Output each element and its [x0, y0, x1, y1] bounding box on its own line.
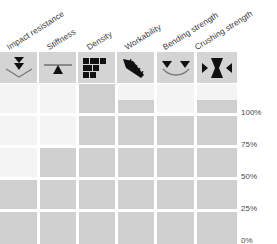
icon-cell-stiffness[interactable]: [39, 52, 76, 83]
bar-fill-bending-strength: [157, 116, 194, 244]
bar-fill-stiffness: [39, 145, 76, 244]
gridline-col-4: [154, 84, 157, 244]
bar-fill-impact-resistance: [0, 180, 37, 244]
y-tick-0: 0%: [241, 236, 253, 244]
gridline-col-1: [37, 84, 40, 244]
column-header-bending-strength: Bending strength: [161, 11, 220, 52]
y-tick-50: 50%: [241, 172, 257, 181]
diagonal-saw-blade-icon: [120, 56, 152, 80]
bar-column-crushing-strength[interactable]: [197, 84, 237, 244]
icon-cell-crushing-strength[interactable]: [197, 52, 237, 83]
compression-hourglass-icon: [200, 57, 234, 79]
bar-fill-workability: [117, 100, 154, 244]
bending-beam-two-arrows-icon: [159, 58, 193, 78]
y-tick-25: 25%: [241, 204, 257, 213]
bar-column-bending-strength[interactable]: [157, 84, 194, 244]
bar-column-stiffness[interactable]: [39, 84, 76, 244]
bar-fill-density: [78, 84, 115, 244]
gridline-100: [0, 113, 237, 116]
column-header-workability: Workability: [123, 23, 163, 52]
gridline-col-5: [194, 84, 197, 244]
icon-header-row: [0, 52, 237, 83]
column-header-density: Density: [85, 30, 114, 52]
bar-fill-crushing-strength: [197, 100, 237, 244]
bar-column-density[interactable]: [78, 84, 115, 244]
icon-cell-workability[interactable]: [117, 52, 154, 83]
bar-column-workability[interactable]: [117, 84, 154, 244]
brick-blocks-icon: [82, 57, 112, 79]
double-down-arrow-impact-icon: [4, 56, 34, 80]
column-header-band: Impact resistance Stiffness Density Work…: [0, 0, 277, 52]
icon-cell-density[interactable]: [78, 52, 115, 83]
gridline-25: [0, 209, 237, 212]
y-tick-100: 100%: [241, 108, 261, 117]
y-axis-labels: 100% 75% 50% 25% 0%: [241, 84, 277, 244]
column-header-stiffness: Stiffness: [45, 27, 77, 52]
gridline-50: [0, 177, 237, 180]
gridline-col-3: [115, 84, 118, 244]
icon-cell-bending-strength[interactable]: [157, 52, 194, 83]
y-tick-75: 75%: [241, 140, 257, 149]
gridline-col-2: [76, 84, 79, 244]
bar-column-impact-resistance[interactable]: [0, 84, 37, 244]
gridline-75: [0, 145, 237, 148]
beam-upward-triangle-icon: [42, 57, 74, 79]
column-header-crushing-strength: Crushing strength: [193, 9, 254, 52]
bar-grid: [0, 84, 237, 244]
icon-cell-impact-resistance[interactable]: [0, 52, 37, 83]
property-rating-chart: Impact resistance Stiffness Density Work…: [0, 0, 277, 244]
